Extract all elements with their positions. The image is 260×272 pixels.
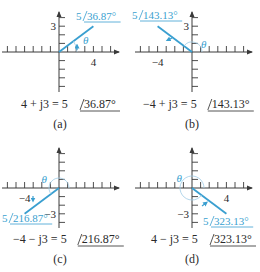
vector-label: 536.87° xyxy=(76,10,121,22)
equation-angle: 216.87° xyxy=(82,232,120,246)
panel-label: (c) xyxy=(53,252,66,266)
vector-label: 5323.13° xyxy=(203,215,253,227)
vector-angle: 143.13° xyxy=(143,9,178,21)
x-tick-label: −4 xyxy=(152,56,164,68)
vector-angle: 323.13° xyxy=(214,215,249,227)
theta-label: θ xyxy=(201,38,207,50)
angle-arrow-icon xyxy=(202,203,206,206)
panel-label: (a) xyxy=(53,117,66,131)
x-tick-label: −4 xyxy=(19,192,31,204)
phasor-diagram-figure: 43θ536.87°4 + j3 = 536.87°(a)−43θ5143.13… xyxy=(0,0,260,272)
phasor-panel-d: 4−3θ5323.13°4 − j3 = 5323.13°(d) xyxy=(135,148,256,266)
theta-label: θ xyxy=(177,172,183,184)
theta-label: θ xyxy=(42,173,48,185)
phasor-panel-a: 43θ536.87°4 + j3 = 536.87°(a) xyxy=(2,10,121,131)
vector-angle: 216.87° xyxy=(13,212,48,224)
vector-magnitude: 5 xyxy=(2,212,8,224)
vector-magnitude: 5 xyxy=(203,215,209,227)
vector-magnitude: 5 xyxy=(132,9,138,21)
phasor-vector xyxy=(192,188,226,214)
equation-caption: −4 − j3 = 5216.87° xyxy=(13,232,124,246)
equation-lhs: 4 − j3 = 5 xyxy=(151,232,198,246)
vector-label: 5143.13° xyxy=(132,9,182,21)
x-tick-label: 4 xyxy=(91,56,97,68)
phasor-panel-c: −4−3θ5216.87°−4 − j3 = 5216.87°(c) xyxy=(2,148,124,266)
equation-lhs: 4 + j3 = 5 xyxy=(21,97,68,111)
equation-caption: 4 + j3 = 536.87° xyxy=(21,97,120,111)
equation-angle: 143.13° xyxy=(212,97,250,111)
theta-label: θ xyxy=(83,34,89,46)
vector-label: 5216.87° xyxy=(2,212,52,224)
x-tick-label: 4 xyxy=(224,192,230,204)
vector-magnitude: 5 xyxy=(76,10,82,22)
vector-angle: 36.87° xyxy=(87,10,116,22)
angle-arrow-icon xyxy=(168,38,172,40)
equation-angle: 323.13° xyxy=(214,232,252,246)
equation-lhs: −4 − j3 = 5 xyxy=(13,232,67,246)
panel-label: (d) xyxy=(185,252,199,266)
y-tick-label: 3 xyxy=(51,20,57,32)
equation-caption: −4 + j3 = 5143.13° xyxy=(143,97,254,111)
y-tick-label: 3 xyxy=(184,20,190,32)
phasor-panel-b: −43θ5143.13°−4 + j3 = 5143.13°(b) xyxy=(132,9,254,131)
equation-angle: 36.87° xyxy=(84,97,116,111)
equation-lhs: −4 + j3 = 5 xyxy=(143,97,197,111)
panel-label: (b) xyxy=(185,117,199,131)
equation-caption: 4 − j3 = 5323.13° xyxy=(151,232,256,246)
y-tick-label: −3 xyxy=(177,208,189,220)
